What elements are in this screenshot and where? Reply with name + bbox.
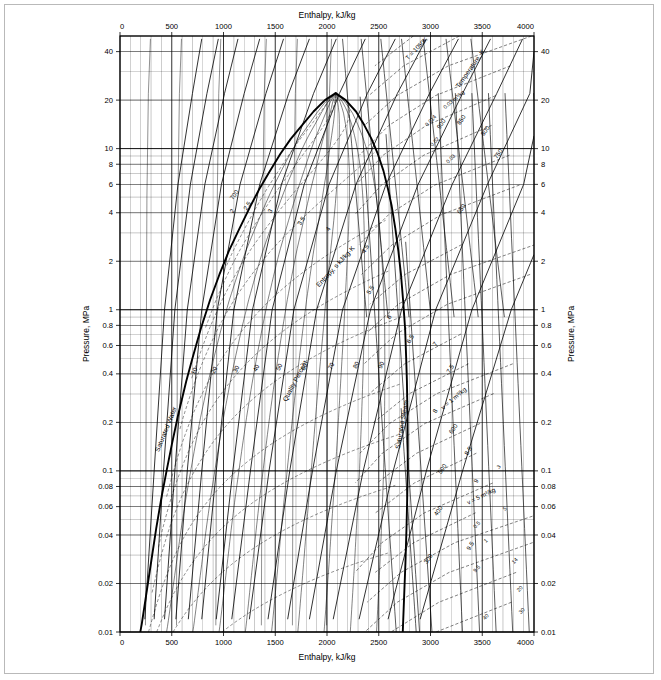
y-tick-label-left: 20 bbox=[105, 96, 113, 105]
y-tick-label-right: 0.06 bbox=[541, 502, 556, 511]
y-tick-label-left: 0.2 bbox=[102, 418, 113, 427]
x-tick-label-bottom: 500 bbox=[165, 638, 178, 647]
label-quality-30: 30 bbox=[231, 364, 241, 374]
x-tick-label-top: 2500 bbox=[370, 22, 387, 31]
x-tick-label-bottom: 1000 bbox=[215, 638, 232, 647]
pressure-enthalpy-chart: 0050050010001000150015002000200025002500… bbox=[0, 0, 661, 680]
y-tick-label-right: 0.6 bbox=[541, 341, 552, 350]
x-tick-label-bottom: 2000 bbox=[319, 638, 336, 647]
x-tick-label-bottom: 2500 bbox=[370, 638, 387, 647]
y-tick-label-left: 1 bbox=[109, 305, 113, 314]
x-tick-label-top: 0 bbox=[120, 22, 124, 31]
y-tick-label-right: 0.1 bbox=[541, 466, 552, 475]
x-tick-label-bottom: 0 bbox=[120, 638, 124, 647]
label-v-five: v = 5 m³/kg bbox=[466, 486, 497, 506]
y-tick-label-right: 2 bbox=[541, 257, 545, 266]
y-tick-label-right: 1 bbox=[541, 305, 545, 314]
curve-labels: Saturated WaterSaturated SteamQuality Pe… bbox=[153, 35, 525, 621]
label-entropy-4p5: 4.5 bbox=[360, 243, 371, 254]
label-temperature-700: 700 bbox=[228, 188, 240, 201]
label-entropy-5p5: 5.5 bbox=[365, 284, 376, 295]
label-temperature-300: 300 bbox=[422, 552, 434, 565]
y-tick-label-right: 8 bbox=[541, 160, 545, 169]
label-entropy-9p5: 9.5 bbox=[465, 540, 476, 551]
y-tick-label-right: 0.4 bbox=[541, 369, 552, 378]
y-tick-label-right: 10 bbox=[541, 144, 549, 153]
x-tick-label-top: 3500 bbox=[474, 22, 491, 31]
y-tick-label-left: 8 bbox=[109, 160, 113, 169]
y-axis-title-left: Pressure, MPa bbox=[81, 306, 91, 362]
y-tick-label-left: 0.8 bbox=[102, 321, 113, 330]
x-tick-label-top: 4000 bbox=[517, 22, 534, 31]
label-temperature-900: 900 bbox=[435, 117, 447, 130]
x-tick-label-top: 3000 bbox=[422, 22, 439, 31]
y-tick-label-left: 2 bbox=[109, 257, 113, 266]
label-entropy-8: 8 bbox=[431, 407, 439, 414]
label-volume-0p5: 0.5 bbox=[472, 520, 482, 530]
label-volume-14: 14 bbox=[510, 556, 518, 564]
label-volume-0p03: 0.03 bbox=[445, 153, 457, 165]
y-tick-label-right: 0.08 bbox=[541, 482, 556, 491]
label-quality-40: 40 bbox=[251, 363, 261, 373]
x-axis-title-bottom: Enthalpy, kJ/kg bbox=[298, 652, 355, 662]
label-entropy-7: 7 bbox=[431, 340, 439, 347]
y-tick-label-left: 0.6 bbox=[102, 341, 113, 350]
x-tick-label-top: 1000 bbox=[215, 22, 232, 31]
label-volume-30: 30 bbox=[517, 606, 525, 614]
y-tick-label-left: 4 bbox=[109, 208, 113, 217]
x-tick-label-top: 2000 bbox=[319, 22, 336, 31]
y-tick-label-left: 10 bbox=[105, 144, 113, 153]
y-tick-label-right: 0.04 bbox=[541, 531, 556, 540]
y-tick-label-left: 0.4 bbox=[102, 369, 113, 378]
y-tick-label-right: 0.2 bbox=[541, 418, 552, 427]
label-volume-1: 1 bbox=[482, 537, 488, 543]
y-tick-label-right: 40 bbox=[541, 47, 549, 56]
label-entropy: Entropy, s kJ/kg·K bbox=[315, 244, 357, 289]
y-axis-title-right: Pressure, MPa bbox=[566, 306, 576, 362]
label-quality-90: 90 bbox=[376, 360, 386, 370]
label-volume-3: 3 bbox=[495, 463, 501, 469]
y-tick-label-left: 0.06 bbox=[98, 502, 113, 511]
x-tick-label-bottom: 3000 bbox=[422, 638, 439, 647]
x-axis-title-top: Enthalpy, kJ/kg bbox=[298, 10, 355, 20]
label-temperature-500: 500 bbox=[436, 462, 448, 475]
y-tick-label-left: 40 bbox=[105, 47, 113, 56]
x-tick-label-top: 1500 bbox=[267, 22, 284, 31]
y-tick-label-left: 0.01 bbox=[98, 628, 113, 637]
x-tick-label-bottom: 3500 bbox=[474, 638, 491, 647]
label-volume-9p5: 9.5 bbox=[472, 564, 482, 574]
y-tick-label-right: 0.01 bbox=[541, 628, 556, 637]
x-tick-label-top: 500 bbox=[165, 22, 178, 31]
label-temperature-400: 400 bbox=[432, 504, 444, 517]
x-tick-label-bottom: 1500 bbox=[267, 638, 284, 647]
y-tick-label-left: 6 bbox=[109, 180, 113, 189]
y-tick-label-right: 0.8 bbox=[541, 321, 552, 330]
y-tick-label-right: 0.02 bbox=[541, 579, 556, 588]
label-entropy-2p5: 2.5 bbox=[242, 200, 253, 211]
y-tick-label-right: 4 bbox=[541, 208, 545, 217]
y-tick-label-right: 6 bbox=[541, 180, 545, 189]
y-tick-label-left: 0.04 bbox=[98, 531, 113, 540]
y-tick-label-left: 0.08 bbox=[98, 482, 113, 491]
y-tick-label-left: 0.1 bbox=[102, 466, 113, 475]
y-tick-label-right: 20 bbox=[541, 96, 549, 105]
label-temperature-600: 600 bbox=[447, 422, 459, 435]
page-root: 0050050010001000150015002000200025002500… bbox=[0, 0, 661, 680]
label-temperature-850: 850 bbox=[455, 113, 467, 126]
y-tick-label-left: 0.02 bbox=[98, 579, 113, 588]
x-tick-label-bottom: 4000 bbox=[517, 638, 534, 647]
label-volume-20: 20 bbox=[515, 584, 523, 592]
